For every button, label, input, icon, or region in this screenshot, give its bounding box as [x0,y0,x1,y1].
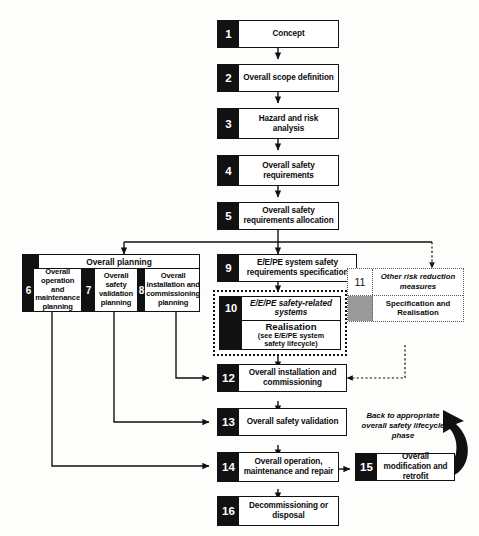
phase-label-16: Decommissioning or disposal [239,497,338,525]
phase-label-12: Overall installation and commissioning [239,365,346,391]
realisation-bottom-row: Realisation (see E/E/PE system safety li… [220,321,340,349]
phase-number-15: 15 [356,454,377,480]
phase-number-11: 11 [348,269,373,295]
phase-box-4[interactable]: 4 Overall safety requirements [217,155,339,186]
phase-number-4: 4 [218,156,239,185]
phase-box-8[interactable]: 8 Overall installation and commissioning… [138,269,201,311]
other-risk-top-row: 11 Other risk reduction measures [348,269,463,296]
phase-label-7: Overall safety validation planning [95,269,137,311]
phase-number-6: 6 [23,269,34,311]
phase-box-10[interactable]: 10 E/E/PE safety-related systems Realisa… [219,296,341,350]
phase-number-7: 7 [82,269,95,311]
feedback-line-3: phase [349,431,457,441]
phase-number-3: 3 [218,109,239,138]
phase-box-3[interactable]: 3 Hazard and risk analysis [217,108,339,139]
realisation-top-row: 10 E/E/PE safety-related systems [220,297,340,321]
phase-label-14: Overall operation, maintenance and repai… [239,453,338,481]
dotted-link-11-to-12 [347,345,405,378]
realisation-note-line2: safety lifecycle) [264,340,318,349]
phase-box-5[interactable]: 5 Overall safety requirements allocation [217,202,339,230]
phase-box-9[interactable]: 9 E/E/PE system safety requirements spec… [217,254,357,282]
phase-number-5: 5 [218,203,239,229]
phase-box-7[interactable]: 7 Overall safety validation planning [82,269,138,311]
phase-box-2[interactable]: 2 Overall scope definition [217,64,339,92]
planning-feed-lines [52,312,209,466]
phase-number-13: 13 [218,409,239,435]
planning-header-swatch [23,255,39,268]
realisation-dotted-frame: 10 E/E/PE safety-related systems Realisa… [213,290,347,356]
realisation-title: E/E/PE safety-related systems [244,299,338,319]
phase-label-6: Overall operation and maintenance planni… [34,269,81,311]
phase-number-16: 16 [218,497,239,525]
realisation-subtitle-wrap: Realisation (see E/E/PE system safety li… [242,321,340,349]
phase-box-13[interactable]: 13 Overall safety validation [217,408,347,436]
phase-label-1: Concept [239,21,338,47]
branch-from-phase-5 [124,230,432,254]
phase-box-11[interactable]: 11 Other risk reduction measures Specifi… [347,268,464,322]
realisation-black-swatch [220,321,242,349]
phase-number-10: 10 [220,297,242,320]
feedback-line-2: overall safety lifecycle [349,421,457,431]
phase-box-14[interactable]: 14 Overall operation, maintenance and re… [217,452,339,482]
realisation-title-wrap: E/E/PE safety-related systems [242,297,340,320]
phase-number-8: 8 [138,269,145,311]
phase-box-16[interactable]: 16 Decommissioning or disposal [217,496,339,526]
phase-box-1[interactable]: 1 Concept [217,20,339,48]
phase-number-1: 1 [218,21,239,47]
overall-planning-group[interactable]: Overall planning 6 Overall operation and… [22,254,200,312]
phase-label-13: Overall safety validation [239,409,346,435]
phase-number-14: 14 [218,453,239,481]
other-risk-title: Other risk reduction measures [373,269,463,295]
other-risk-subtitle: Specification and Realisation [373,296,463,322]
phase-label-3: Hazard and risk analysis [239,109,338,138]
phase-label-5: Overall safety requirements allocation [239,203,338,229]
overall-safety-lifecycle-diagram: 1 Concept 2 Overall scope definition 3 H… [0,0,479,536]
feedback-annotation: Back to appropriate overall safety lifec… [349,411,457,441]
phase-number-2: 2 [218,65,239,91]
other-risk-bottom-row: Specification and Realisation [348,296,463,322]
phase-label-8: Overall installation and commissioning p… [145,269,201,311]
phase-box-6[interactable]: 6 Overall operation and maintenance plan… [23,269,82,311]
phase-box-12[interactable]: 12 Overall installation and commissionin… [217,364,347,392]
phase-label-15: Overall modification and retrofit [377,454,454,480]
phase-number-12: 12 [218,365,239,391]
feedback-line-1: Back to appropriate [349,411,457,421]
phase-label-9: E/E/PE system safety requirements specif… [239,255,356,281]
other-risk-grey-swatch [348,296,373,322]
phase-label-4: Overall safety requirements [239,156,338,185]
phase-label-2: Overall scope definition [239,65,338,91]
phase-box-15[interactable]: 15 Overall modification and retrofit [355,453,455,481]
phase-number-9: 9 [218,255,239,281]
